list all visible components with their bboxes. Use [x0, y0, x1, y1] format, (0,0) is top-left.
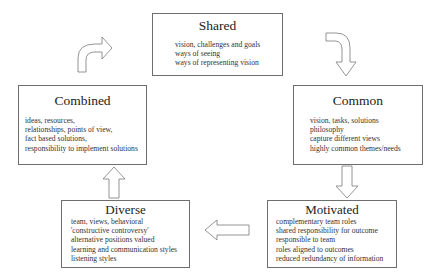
node-item: complementary team roles	[276, 217, 396, 226]
node-item: philosophy	[310, 125, 422, 134]
node-item: vision, challenges and goals	[175, 40, 282, 49]
down-arrow-icon	[336, 166, 358, 198]
node-item: relationships, points of view,	[25, 125, 146, 134]
node-item: roles aligned to outcomes	[276, 245, 396, 254]
node-item: capture different views	[310, 134, 422, 143]
node-item: fact based solutions,	[25, 134, 146, 143]
node-item: 'constructive controversy'	[71, 226, 189, 235]
node-item: highly common themes/needs	[310, 144, 422, 153]
node-title: Common	[294, 93, 422, 109]
node-title: Shared	[153, 18, 282, 34]
curved-arrow-icon	[326, 33, 356, 76]
node-item: vision, tasks, solutions	[310, 116, 422, 125]
node-item: team, views, behavioral	[71, 217, 189, 226]
node-items: team, views, behavioral 'constructive co…	[71, 217, 189, 263]
up-arrow-icon	[103, 167, 125, 198]
node-title: Diverse	[62, 203, 189, 217]
node-title: Motivated	[268, 203, 396, 217]
left-arrow-icon	[205, 220, 249, 240]
curved-arrow-icon	[78, 37, 112, 72]
node-item: ways of seeing	[175, 49, 282, 58]
node-combined: Combined ideas, resources, relationships…	[18, 85, 147, 165]
node-diverse: Diverse team, views, behavioral 'constru…	[61, 200, 190, 268]
node-items: vision, tasks, solutions philosophy capt…	[310, 116, 422, 153]
node-item: responsible to team	[276, 235, 396, 244]
node-item: alternative positions valued	[71, 235, 189, 244]
node-items: ideas, resources, relationships, points …	[25, 116, 146, 153]
node-title: Combined	[19, 93, 146, 109]
node-item: learning and communication styles	[71, 245, 189, 254]
node-common: Common vision, tasks, solutions philosop…	[293, 85, 423, 165]
node-item: shared responsibility for outcome	[276, 226, 396, 235]
node-motivated: Motivated complementary team roles share…	[267, 200, 397, 268]
node-item: ideas, resources,	[25, 116, 146, 125]
node-shared: Shared vision, challenges and goals ways…	[152, 13, 283, 76]
node-items: complementary team roles shared responsi…	[276, 217, 396, 263]
node-item: reduced redundancy of information	[276, 254, 396, 263]
node-item: ways of representing vision	[175, 58, 282, 67]
node-item: listening styles	[71, 254, 189, 263]
node-items: vision, challenges and goals ways of see…	[175, 40, 282, 68]
node-item: responsibility to implement solutions	[25, 144, 146, 153]
